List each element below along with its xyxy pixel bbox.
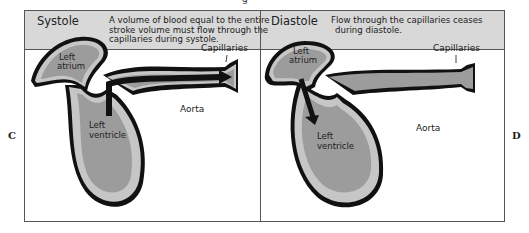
panel-label-c: C <box>8 130 16 141</box>
systole-left-ventricle-label-1: Left <box>89 120 106 130</box>
diastole-left-ventricle-label-1: Left <box>317 131 334 141</box>
diastole-left-ventricle-label-2: ventricle <box>317 141 354 151</box>
panel-label-d: D <box>512 130 521 141</box>
systole-aorta-label: Aorta <box>180 104 204 114</box>
diastole-capillaries-label: Capillaries <box>433 43 480 53</box>
systole-heart-diagram: Capillaries Left atrium Left ventricle A… <box>25 11 260 223</box>
systole-left-ventricle-label-2: ventricle <box>89 130 126 140</box>
diastole-heart-diagram: Capillaries Left atrium Left ventricle A… <box>261 11 506 223</box>
systole-left-atrium-label-2: atrium <box>57 61 85 71</box>
diastole-aorta-label: Aorta <box>416 123 440 133</box>
systole-capillaries-label: Capillaries <box>201 43 248 53</box>
diastole-left-atrium-label-2: atrium <box>289 55 317 65</box>
caption-fragment: g <box>242 0 248 4</box>
diagram-frame: Systole A volume of blood equal to the e… <box>24 10 505 222</box>
